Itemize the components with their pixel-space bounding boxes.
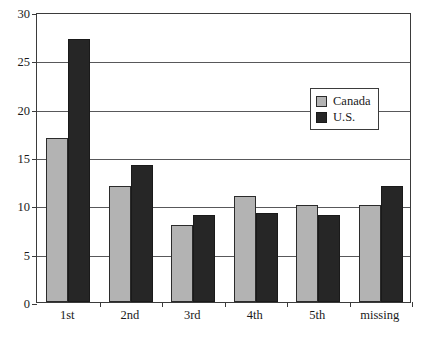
x-axis-label-4th: 4th [247,309,263,322]
legend-item-canada: Canada [316,93,370,109]
y-axis-tick-label: 25 [18,56,31,69]
y-axis-tick-label: 15 [18,153,31,166]
bar-canada-5th [296,205,318,302]
bar-us-2nd [131,165,153,302]
y-axis-tick-label: 5 [24,249,30,262]
x-axis-label-3rd: 3rd [184,309,201,322]
bar-chart: 051015202530 1st2nd3rd4th5thmissing Cana… [0,0,424,340]
y-axis-tick-label: 0 [24,298,30,311]
x-axis-label-2nd: 2nd [120,309,139,322]
legend-item-us: U.S. [316,109,370,125]
x-axis-label-5th: 5th [309,309,325,322]
bar-us-1st [68,39,90,302]
x-axis-tick-mark [162,302,163,307]
legend-label-us: U.S. [333,111,355,124]
x-axis-tick-mark [225,302,226,307]
x-axis-tick-mark [350,302,351,307]
x-axis-tick-mark [287,302,288,307]
x-axis-tick-mark [100,302,101,307]
y-axis-tick-mark [32,304,37,305]
bar-canada-3rd [171,225,193,302]
y-axis-tick-label: 20 [18,104,31,117]
bar-us-5th [318,215,340,302]
bar-us-missing [381,186,403,302]
bars-layer [37,14,410,302]
bar-canada-missing [359,205,381,302]
bar-canada-1st [46,138,68,302]
y-axis-tick-label: 30 [18,8,31,21]
bar-us-4th [256,213,278,302]
bar-canada-2nd [109,186,131,302]
legend-label-canada: Canada [333,95,370,108]
x-axis-tick-mark [412,302,413,307]
legend: Canada U.S. [310,88,379,130]
x-axis-label-1st: 1st [60,309,75,322]
black-square-swatch [316,112,327,123]
gray-square-swatch [316,96,327,107]
x-axis-label-missing: missing [360,309,399,322]
y-axis-tick-label: 10 [18,201,31,214]
plot-area: 051015202530 [36,13,411,303]
bar-us-3rd [193,215,215,302]
bar-canada-4th [234,196,256,302]
